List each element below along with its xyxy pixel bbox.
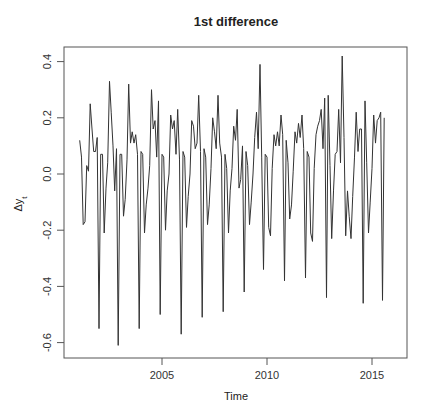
y-tick-label: 0.2 xyxy=(41,110,53,125)
y-tick-label: -0.4 xyxy=(41,277,53,296)
line-chart: 0.40.20.0-0.2-0.4-0.6 200520102015 Time … xyxy=(0,0,428,416)
x-axis-title: Time xyxy=(224,390,248,402)
y-tick-label: -0.2 xyxy=(41,221,53,240)
x-tick-label: 2015 xyxy=(360,369,384,381)
y-tick-label: 0.0 xyxy=(41,166,53,181)
y-axis-title: Δyt xyxy=(12,196,29,212)
y-tick-label: -0.6 xyxy=(41,333,53,352)
x-tick-label: 2005 xyxy=(150,369,174,381)
y-tick-label: 0.4 xyxy=(41,54,53,69)
x-axis: 200520102015 xyxy=(150,358,384,381)
series-line xyxy=(80,56,385,345)
x-tick-label: 2010 xyxy=(255,369,279,381)
plot-frame xyxy=(64,47,407,358)
y-axis: 0.40.20.0-0.2-0.4-0.6 xyxy=(41,54,64,352)
